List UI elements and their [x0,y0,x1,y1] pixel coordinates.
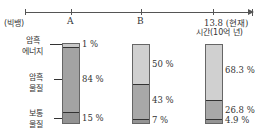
tick-b [141,9,142,15]
big-bang-label: (빅뱅) [4,17,24,28]
bar-b-dark-energy [133,45,149,84]
label-ordinary-line1: 보통 [29,108,43,119]
label-dark-energy-line2: 에너지 [22,46,43,57]
bar-a [62,43,80,124]
bar-a-ordinary-matter [63,112,79,123]
tick-big-bang [25,9,26,15]
label-dark-energy-line1: 암흑 [22,35,43,46]
tick-label-a: A [67,16,74,26]
label-dark-energy: 암흑 에너지 [22,35,43,57]
bar-a-ordinary-pct: 15 % [82,113,104,123]
bar-b-dark-matter [133,84,149,119]
bar-a-dark-matter [63,47,79,112]
bar-b-ordinary-matter [133,119,149,123]
bar-c-dark-energy-pct: 68.3 % [225,65,255,75]
axis-end-mark [252,9,253,16]
tick-now [213,9,214,15]
label-dark-matter: 암흑 물질 [29,72,43,94]
bar-c [205,44,223,124]
bar-c-dark-matter-pct: 26.8 % [225,105,255,115]
tick-a [71,9,72,15]
bar-c-dark-matter [206,100,222,119]
label-ordinary-matter: 보통 물질 [29,108,43,130]
bar-c-dark-energy [206,45,222,100]
label-ordinary-line2: 물질 [29,119,43,130]
leader-dark-matter [54,79,62,80]
bar-c-ordinary-matter [206,119,222,123]
label-dark-matter-line2: 물질 [29,83,43,94]
axis-title: 시간(10억 년) [196,26,243,37]
leader-dark-energy [50,44,62,45]
tick-label-b: B [137,16,144,26]
bar-b-dark-energy-pct: 50 % [152,59,174,69]
bar-a-dark-energy-pct: 1 % [82,39,98,49]
time-axis [25,12,253,13]
axis-arrow-icon [248,9,254,15]
label-dark-matter-line1: 암흑 [29,72,43,83]
bar-b [132,44,150,124]
bar-b-ordinary-pct: 7 % [152,115,168,125]
bar-b-dark-matter-pct: 43 % [152,95,174,105]
bar-a-dark-matter-pct: 84 % [82,74,104,84]
bar-c-ordinary-pct: 4.9 % [225,115,249,125]
